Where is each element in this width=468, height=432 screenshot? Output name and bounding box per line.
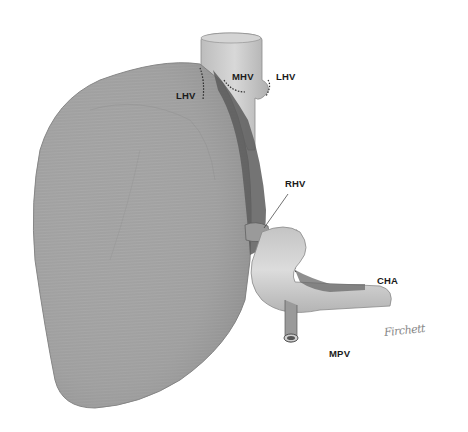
label-lhv-left: LHV: [176, 90, 196, 101]
label-rhv: RHV: [285, 178, 306, 189]
label-mpv: MPV: [329, 348, 350, 359]
label-mhv: MHV: [232, 71, 254, 82]
rhv-pointer-line: [264, 194, 288, 228]
liver-body: [33, 63, 251, 408]
label-cha: CHA: [377, 275, 398, 286]
liver-illustration: [0, 0, 468, 432]
label-lhv-right: LHV: [276, 71, 296, 82]
portal-vessels: [251, 227, 391, 342]
